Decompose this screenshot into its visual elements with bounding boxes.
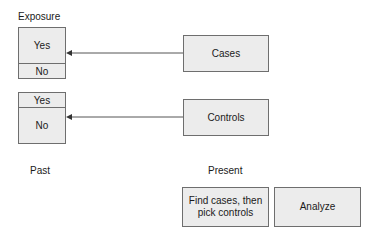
present-label: Present bbox=[208, 165, 242, 176]
cases-box: Cases bbox=[183, 35, 269, 72]
arrowhead-icon bbox=[66, 50, 72, 56]
arrowhead-icon bbox=[66, 114, 72, 120]
find-cases-box: Find cases, then pick controls bbox=[182, 187, 269, 227]
analyze-box: Analyze bbox=[274, 187, 361, 227]
controls-box: Controls bbox=[183, 99, 269, 136]
past-label: Past bbox=[30, 165, 50, 176]
